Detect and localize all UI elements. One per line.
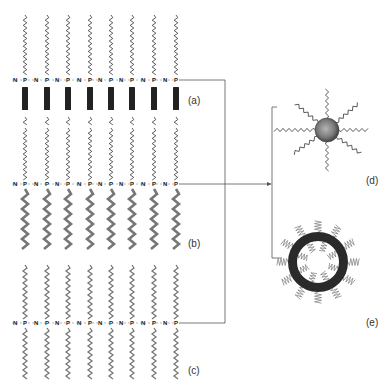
atom-p: P [109, 320, 113, 326]
vesicle-outer-chain [295, 287, 305, 299]
atom-p: P [23, 320, 27, 326]
atom-n: N [77, 77, 81, 83]
micelle-chain [338, 128, 368, 131]
micelle-chain [274, 128, 316, 131]
vesicle-inner-chain [327, 251, 337, 259]
side-chain-thin [174, 15, 178, 75]
side-chain-gray [174, 265, 178, 319]
side-chain-gray [45, 328, 49, 379]
side-chain-gray [109, 328, 113, 379]
side-chain-gray [152, 328, 156, 379]
side-chain-thick [44, 189, 50, 249]
atom-n: N [141, 77, 145, 83]
side-chain-thin [152, 128, 156, 180]
side-chain-gray [23, 265, 27, 319]
hydrophobic-block [44, 87, 50, 110]
vesicle-outer-chain [331, 225, 341, 237]
micelle-core [315, 118, 339, 142]
side-chain-thin [130, 128, 134, 180]
side-chain-thick [108, 189, 114, 249]
atom-p: P [23, 181, 27, 187]
atom-p: P [152, 77, 156, 83]
atom-n: N [141, 320, 145, 326]
side-chain-gray [130, 328, 134, 379]
vesicle-inner-chain [307, 243, 315, 253]
atom-p: P [109, 77, 113, 83]
arrow-head-icon [267, 182, 272, 186]
atom-n: N [13, 77, 17, 83]
side-chain-thin [109, 128, 113, 180]
side-chain-thin [66, 128, 70, 180]
vesicle-inner-chain [299, 265, 309, 273]
micelle-chain [294, 136, 318, 154]
atom-n: N [98, 77, 102, 83]
atom-n: N [98, 320, 102, 326]
atom-p: P [174, 181, 178, 187]
label-a: (a) [188, 95, 200, 106]
vesicle-inner-chain [329, 263, 338, 271]
polymer-row-c: NNNNNNNNPPPPPPPP [12, 265, 178, 379]
atom-n: N [119, 77, 123, 83]
atom-p: P [23, 77, 27, 83]
hydrophobic-block [65, 87, 71, 110]
atom-n: N [119, 181, 123, 187]
atom-n: N [13, 181, 17, 187]
atom-p: P [109, 181, 113, 187]
side-chain-thin [88, 15, 92, 75]
vesicle-outer-chain [344, 238, 354, 249]
atom-n: N [55, 77, 59, 83]
side-chain-thin [45, 128, 49, 180]
side-chain-gray [130, 265, 134, 319]
hydrophobic-block [87, 87, 93, 110]
side-chain-gray [174, 328, 178, 379]
polymer-row-a: NNNNNNNNPPPPPPPP [12, 15, 179, 125]
vesicle-outer-chain [348, 259, 359, 266]
side-chain-gray [88, 265, 92, 319]
vesicle-outer-chain [281, 239, 293, 249]
atom-n: N [119, 320, 123, 326]
vesicle-inner-chain [321, 271, 329, 281]
micelle-chain [336, 136, 361, 153]
atom-p: P [45, 320, 49, 326]
label-b: (b) [188, 238, 200, 249]
atom-p: P [174, 77, 178, 83]
side-chain-thin [152, 15, 156, 75]
atom-p: P [174, 320, 178, 326]
atom-p: P [88, 320, 92, 326]
side-chain-gray [88, 328, 92, 379]
atom-p: P [66, 77, 70, 83]
side-chain-thin [88, 128, 92, 180]
side-chain-gray [152, 265, 156, 319]
atom-n: N [55, 181, 59, 187]
vesicle-outer-chain [282, 275, 292, 286]
atom-n: N [34, 77, 38, 83]
side-chain-thick [173, 189, 179, 249]
atom-p: P [152, 181, 156, 187]
vesicle-outer-chain [343, 275, 355, 285]
atom-n: N [163, 320, 167, 326]
atom-n: N [163, 77, 167, 83]
side-chain-thin [109, 15, 113, 75]
atom-p: P [66, 320, 70, 326]
atom-n: N [98, 181, 102, 187]
side-chain-thick [151, 189, 157, 249]
hydrophobic-block [151, 87, 157, 110]
connector-lines [179, 80, 282, 323]
vesicle-structure-e [277, 221, 359, 303]
side-chain-thin [66, 15, 70, 75]
vesicle-outer-chain [277, 259, 288, 266]
atom-p: P [45, 181, 49, 187]
vesicle-outer-chain [294, 226, 305, 236]
atom-n: N [55, 320, 59, 326]
micelle-chain [335, 102, 357, 123]
side-chain-thin [23, 128, 27, 180]
atom-p: P [130, 77, 134, 83]
atom-p: P [130, 181, 134, 187]
atom-p: P [88, 181, 92, 187]
label-c: (c) [188, 365, 200, 376]
side-chain-thin [23, 15, 27, 75]
vesicle-membrane [293, 237, 344, 288]
diagram-canvas: NNNNNNNNPPPPPPPP NNNNNNNNPPPPPPPP NNNNNN… [0, 0, 391, 390]
side-chain-thick [22, 189, 28, 249]
side-chain-gray [109, 265, 113, 319]
